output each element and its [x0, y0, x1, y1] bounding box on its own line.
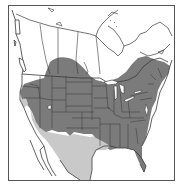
range-map: [0, 0, 178, 190]
great-salt-lake: [48, 105, 51, 109]
haida-gwaii: [15, 20, 20, 34]
range-map-svg: [0, 0, 178, 190]
